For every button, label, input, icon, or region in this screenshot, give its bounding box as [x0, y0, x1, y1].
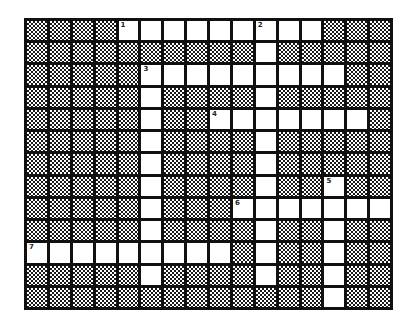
crossword-cell[interactable] [210, 65, 230, 84]
blocked-cell [256, 288, 276, 307]
crossword-cell[interactable] [256, 132, 276, 151]
blocked-cell [302, 132, 322, 151]
blocked-cell [347, 266, 367, 285]
crossword-cell[interactable] [141, 221, 161, 240]
blocked-cell [370, 88, 390, 107]
blocked-cell [370, 154, 390, 173]
crossword-cell[interactable] [141, 21, 161, 40]
crossword-cell[interactable] [302, 65, 322, 84]
crossword-cell[interactable]: 3 [141, 65, 161, 84]
crossword-cell[interactable] [141, 88, 161, 107]
blocked-cell [164, 288, 184, 307]
crossword-cell[interactable] [50, 243, 70, 262]
crossword-cell[interactable] [256, 221, 276, 240]
crossword-cell[interactable] [324, 65, 344, 84]
blocked-cell [370, 43, 390, 62]
crossword-cell[interactable] [141, 266, 161, 285]
blocked-cell [96, 177, 116, 196]
crossword-cell[interactable]: 1 [119, 21, 139, 40]
crossword-cell[interactable] [119, 243, 139, 262]
crossword-cell[interactable] [279, 110, 299, 129]
crossword-cell[interactable] [210, 243, 230, 262]
crossword-cell[interactable]: 6 [233, 199, 253, 218]
blocked-cell [96, 266, 116, 285]
crossword-cell[interactable]: 5 [324, 177, 344, 196]
blocked-cell [210, 132, 230, 151]
blocked-cell [96, 21, 116, 40]
crossword-cell[interactable] [233, 110, 253, 129]
crossword-cell[interactable] [141, 177, 161, 196]
crossword-cell[interactable] [141, 199, 161, 218]
blocked-cell [347, 177, 367, 196]
crossword-cell[interactable] [256, 110, 276, 129]
crossword-cell[interactable] [324, 199, 344, 218]
clue-number: 1 [121, 22, 126, 29]
blocked-cell [73, 154, 93, 173]
crossword-cell[interactable] [256, 43, 276, 62]
crossword-cell[interactable] [141, 154, 161, 173]
crossword-cell[interactable] [347, 199, 367, 218]
crossword-cell[interactable] [96, 243, 116, 262]
crossword-cell[interactable] [347, 110, 367, 129]
blocked-cell [164, 221, 184, 240]
crossword-cell[interactable] [256, 88, 276, 107]
crossword-cell[interactable] [256, 154, 276, 173]
crossword-cell[interactable]: 2 [256, 21, 276, 40]
crossword-cell[interactable] [73, 243, 93, 262]
crossword-cell[interactable] [187, 243, 207, 262]
crossword-cell[interactable] [256, 266, 276, 285]
blocked-cell [27, 88, 47, 107]
crossword-cell[interactable] [324, 221, 344, 240]
blocked-cell [73, 288, 93, 307]
crossword-cell[interactable]: 4 [210, 110, 230, 129]
crossword-cell[interactable] [302, 21, 322, 40]
crossword-cell[interactable] [141, 243, 161, 262]
blocked-cell [119, 288, 139, 307]
blocked-cell [119, 43, 139, 62]
blocked-cell [50, 65, 70, 84]
crossword-cell[interactable] [164, 243, 184, 262]
blocked-cell [302, 154, 322, 173]
crossword-cell[interactable] [210, 21, 230, 40]
blocked-cell [233, 132, 253, 151]
blocked-cell [302, 288, 322, 307]
blocked-cell [27, 177, 47, 196]
crossword-cell[interactable] [164, 65, 184, 84]
crossword-cell[interactable] [324, 243, 344, 262]
blocked-cell [370, 65, 390, 84]
clue-number: 5 [326, 178, 331, 185]
blocked-cell [370, 221, 390, 240]
blocked-cell [233, 177, 253, 196]
crossword-cell[interactable] [187, 21, 207, 40]
blocked-cell [187, 43, 207, 62]
crossword-cell[interactable] [141, 132, 161, 151]
crossword-cell[interactable] [302, 110, 322, 129]
blocked-cell [27, 266, 47, 285]
crossword-cell[interactable] [279, 21, 299, 40]
blocked-cell [96, 199, 116, 218]
crossword-cell[interactable] [164, 21, 184, 40]
crossword-cell[interactable] [233, 65, 253, 84]
blocked-cell [302, 221, 322, 240]
crossword-cell[interactable] [256, 177, 276, 196]
crossword-cell[interactable] [233, 21, 253, 40]
blocked-cell [96, 65, 116, 84]
crossword-cell[interactable] [256, 243, 276, 262]
blocked-cell [119, 221, 139, 240]
crossword-cell[interactable] [324, 266, 344, 285]
crossword-cell[interactable] [324, 110, 344, 129]
crossword-cell[interactable] [370, 199, 390, 218]
crossword-cell[interactable] [324, 288, 344, 307]
crossword-cell[interactable] [279, 65, 299, 84]
crossword-cell[interactable] [141, 110, 161, 129]
crossword-cell[interactable] [256, 199, 276, 218]
blocked-cell [50, 288, 70, 307]
crossword-cell[interactable]: 7 [27, 243, 47, 262]
blocked-cell [370, 243, 390, 262]
crossword-cell[interactable] [256, 65, 276, 84]
crossword-cell[interactable] [279, 199, 299, 218]
crossword-cell[interactable] [302, 199, 322, 218]
blocked-cell [96, 154, 116, 173]
blocked-cell [96, 288, 116, 307]
crossword-cell[interactable] [187, 65, 207, 84]
